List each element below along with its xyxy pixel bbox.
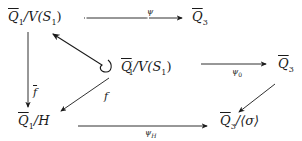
node-q1-vs1: Q1/V(S1) — [8, 9, 62, 31]
arrow-q3-to-q3sigma — [239, 84, 275, 112]
node-q1-h: Q1/H — [18, 113, 49, 135]
node-q3-top: Q3 — [192, 9, 208, 31]
label-f: f — [104, 90, 108, 103]
node-q1prime-vs1: Q′1/V(S1) — [121, 56, 172, 81]
node-q3-right: Q3 — [278, 56, 294, 78]
label-psiH: ψH — [145, 128, 157, 141]
label-psi0: ψ0 — [232, 67, 242, 80]
label-psi: ψ — [147, 7, 153, 17]
arrow-hook — [53, 34, 111, 72]
arrow-f — [61, 78, 109, 111]
label-fbar: f — [33, 86, 37, 99]
node-q3-sigma: Q3/⟨σ⟩ — [220, 113, 259, 135]
